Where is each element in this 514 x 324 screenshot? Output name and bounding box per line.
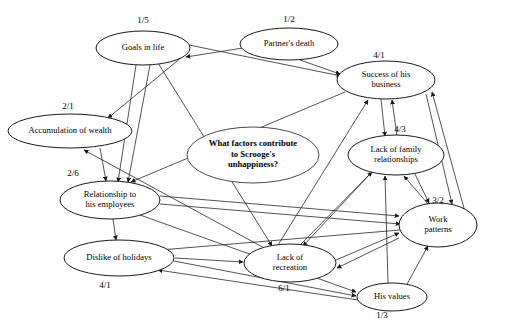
edge-work-to-family [404,176,428,204]
node-label-holidays: Dislike of holidays [86,252,152,262]
node-label-values: His values [374,291,411,301]
node-label-employees: his employees [86,199,136,209]
node-label-success: business [371,79,401,89]
node-employees[interactable]: Relationship tohis employees [60,181,160,219]
ratio-label-goals: 1/5 [137,15,149,25]
concept-map-svg: 1/5Goals in life1/2Partner's death4/1Suc… [0,0,514,324]
node-label-work: Work [429,214,449,224]
node-label-work: patterns [424,224,452,234]
node-label-success: Success of his [362,69,411,79]
node-center[interactable]: What factors contributeto Scrooge'sunhap… [187,127,319,183]
ratio-label-employees: 2/6 [67,168,79,178]
ratio-label-partner: 1/2 [283,14,295,24]
edge-values-to-family [385,176,388,283]
edge-employees-to-work [160,196,399,216]
node-partner[interactable]: Partner's death [240,28,338,60]
node-holidays[interactable]: Dislike of holidays [64,240,174,276]
node-family[interactable]: Lack of familyrelationships [348,135,444,175]
node-recreation[interactable]: Lack ofrecreation [244,244,336,282]
node-work[interactable]: Workpatterns [399,203,477,247]
node-wealth[interactable]: Accumulation of wealth [8,114,132,148]
node-label-employees: Relationship to [84,189,136,199]
node-label-wealth: Accumulation of wealth [28,125,112,135]
ratio-label-recreation: 6/1 [278,283,290,293]
node-label-center: unhappiness? [228,159,278,169]
node-label-family: relationships [374,154,419,164]
node-success[interactable]: Success of hisbusiness [337,61,435,99]
node-label-center: What factors contribute [209,138,297,148]
node-goals[interactable]: Goals in life [96,31,190,65]
edge-employees-to-recreation [160,204,400,224]
edge-goals-to-employees2 [128,65,150,182]
ratio-label-wealth: 2/1 [62,101,74,111]
edge-wealth-to-employees [100,148,106,181]
edge-recreation-to-work [336,233,399,260]
node-label-goals: Goals in life [122,42,165,52]
ratio-label-family: 4/3 [394,124,406,134]
edge-goals-to-wealth [108,57,182,118]
node-label-family: Lack of family [370,144,422,154]
edge-partner-to-goals [186,48,243,57]
node-label-partner: Partner's death [264,38,315,48]
edge-values-to-work [406,246,428,286]
edge-success-to-family [381,99,385,136]
ratio-label-success: 4/1 [373,50,385,60]
ratio-label-holidays: 4/1 [99,280,111,290]
node-label-center: to Scrooge's [231,149,276,159]
edge-holidays-to-recreation [175,258,243,262]
node-values[interactable]: His values [357,283,427,311]
node-label-recreation: Lack of [277,252,304,262]
edge-employees-to-holidays [113,219,116,240]
concept-map-canvas: 1/5Goals in life1/2Partner's death4/1Suc… [0,0,514,324]
node-label-recreation: recreation [273,262,308,272]
ratio-label-values: 1/3 [376,310,388,320]
edge-family-to-work [414,172,429,203]
edge-work-to-recreation [337,238,399,268]
